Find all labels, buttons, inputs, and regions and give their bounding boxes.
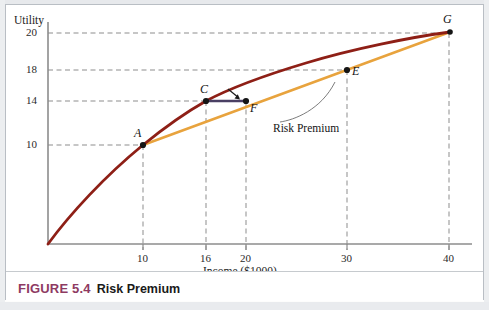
xtick-label-10: 10 <box>137 252 148 264</box>
point-label-F: F <box>250 101 257 116</box>
figure-title: Risk Premium <box>97 282 180 296</box>
figure-number: FIGURE 5.4 <box>18 281 91 296</box>
ytick-label-18: 18 <box>26 63 37 75</box>
x-axis-ticks <box>143 244 449 250</box>
xtick-label-40: 40 <box>443 252 454 264</box>
ytick-label-14: 14 <box>26 94 37 106</box>
figure-caption: FIGURE 5.4Risk Premium <box>18 279 180 297</box>
point-marker-C <box>203 98 209 104</box>
gridlines-horizontal <box>48 33 449 145</box>
point-marker-A <box>140 142 146 148</box>
xtick-label-20: 20 <box>240 252 251 264</box>
y-axis-title: Utility <box>14 14 44 26</box>
point-label-A: A <box>134 126 141 141</box>
xtick-label-30: 30 <box>341 252 352 264</box>
risk-premium-arrow-icon <box>228 89 240 100</box>
utility-curve <box>48 32 450 244</box>
point-label-C: C <box>200 82 208 97</box>
ytick-label-20: 20 <box>26 26 37 38</box>
point-marker-F <box>243 98 249 104</box>
point-label-E: E <box>352 64 359 79</box>
risk-premium-leader-arc <box>280 82 335 122</box>
risk-premium-annotation: Risk Premium <box>273 122 339 134</box>
point-label-G: G <box>443 12 452 27</box>
ytick-label-10: 10 <box>26 138 37 150</box>
figure-caption-bar: FIGURE 5.4Risk Premium <box>6 271 483 301</box>
point-marker-G <box>447 29 453 35</box>
figure-container: Utility 20 18 14 10 10 16 20 30 40 Incom… <box>0 0 489 310</box>
xtick-label-16: 16 <box>200 252 211 264</box>
point-marker-E <box>344 67 350 73</box>
